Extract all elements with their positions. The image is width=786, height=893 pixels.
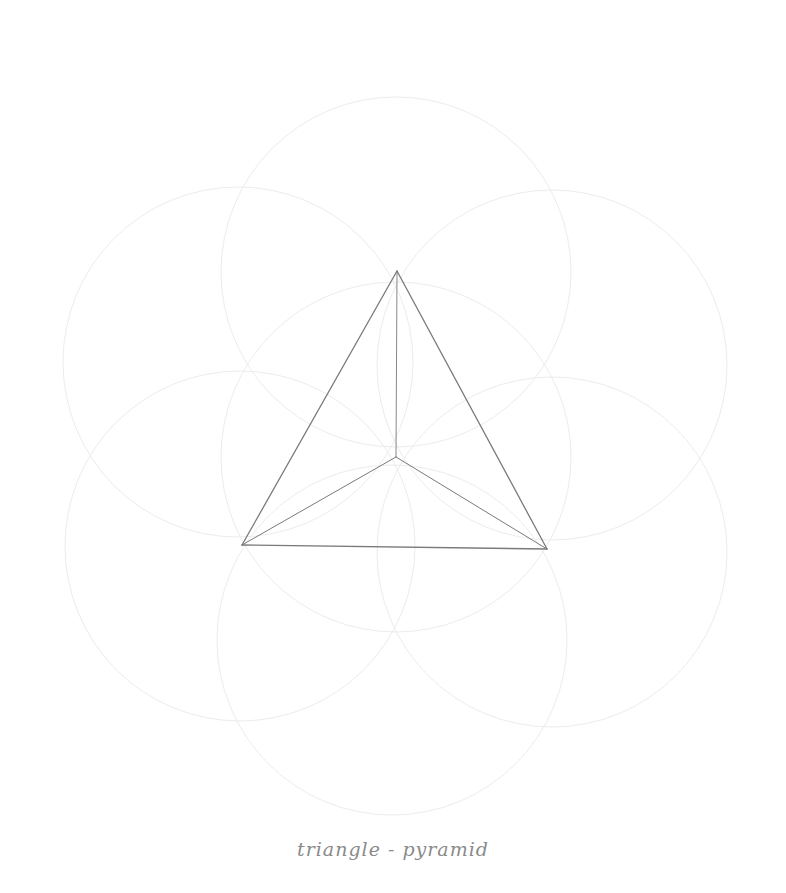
edge-left-center xyxy=(242,457,396,545)
edge-apex-center xyxy=(396,271,397,457)
construction-circle xyxy=(217,465,567,815)
construction-circle xyxy=(377,190,727,540)
construction-circle xyxy=(63,187,413,537)
drawing-caption: triangle - pyramid xyxy=(0,838,786,860)
construction-circle xyxy=(377,377,727,727)
edge-apex-right xyxy=(397,271,547,549)
pencil-drawing xyxy=(0,0,786,893)
construction-circles xyxy=(63,97,727,815)
edge-apex-left xyxy=(242,271,397,545)
edge-right-center xyxy=(396,457,547,549)
edge-base xyxy=(242,545,547,549)
